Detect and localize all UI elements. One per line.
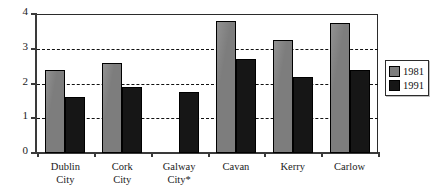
y-axis-tick-label: 1 <box>23 110 29 121</box>
bar-group <box>159 14 199 153</box>
chart-legend: 19811991 <box>385 60 429 96</box>
bar-group <box>273 14 313 153</box>
x-axis-category-label-line: Cavan <box>208 161 265 174</box>
x-axis-tick-mark <box>378 152 380 157</box>
x-axis-tick-mark <box>321 152 323 157</box>
x-axis-category-label: Cavan <box>208 161 265 174</box>
bar-group <box>102 14 142 153</box>
x-axis-tick-mark <box>208 152 210 157</box>
bar-group <box>216 14 256 153</box>
bars-layer <box>37 14 378 153</box>
y-axis-tick-label: 2 <box>23 76 29 87</box>
legend-swatch-icon <box>389 80 400 91</box>
legend-swatch-icon <box>389 66 400 77</box>
bar-1991 <box>293 77 313 153</box>
bar-group <box>330 14 370 153</box>
bar-1991 <box>65 97 85 153</box>
bar-chart: 01234 DublinCityCorkCityGalwayCity*Cavan… <box>0 0 442 194</box>
x-axis-category-label-line: Dublin <box>37 161 94 174</box>
x-axis-category-label-line: Cork <box>94 161 151 174</box>
y-axis-tick-label: 3 <box>23 41 29 52</box>
x-axis-category-label: DublinCity <box>37 161 94 186</box>
x-axis-tick-mark <box>94 152 96 157</box>
bar-1981 <box>102 63 122 153</box>
x-axis-tick-mark <box>151 152 153 157</box>
bar-1991 <box>179 92 199 153</box>
x-axis-category-label: GalwayCity* <box>151 161 208 186</box>
bar-group <box>45 14 85 153</box>
x-axis-category-label: Kerry <box>264 161 321 174</box>
bar-1981 <box>216 21 236 153</box>
x-axis-tick-mark <box>264 152 266 157</box>
x-axis-tick-mark <box>37 152 39 157</box>
legend-item-label: 1981 <box>403 66 424 77</box>
x-axis-category-label-line: Kerry <box>264 161 321 174</box>
x-axis-category-label-line: Carlow <box>321 161 378 174</box>
legend-item-label: 1991 <box>403 80 424 91</box>
y-axis-tick-label: 4 <box>23 6 29 17</box>
bar-1991 <box>236 59 256 153</box>
x-axis-category-label-line: City* <box>151 174 208 187</box>
bar-1981 <box>330 23 350 153</box>
x-axis-category-label: Carlow <box>321 161 378 174</box>
bar-1981 <box>273 40 293 153</box>
bar-1991 <box>122 87 142 153</box>
x-axis-category-label-line: Galway <box>151 161 208 174</box>
bar-1991 <box>350 70 370 153</box>
x-axis-category-label: CorkCity <box>94 161 151 186</box>
x-axis-category-label-line: City <box>94 174 151 187</box>
legend-item: 1981 <box>389 64 424 78</box>
legend-item: 1991 <box>389 78 424 92</box>
x-axis-category-label-line: City <box>37 174 94 187</box>
y-axis-tick-label: 0 <box>23 145 29 156</box>
bar-1981 <box>45 70 65 153</box>
